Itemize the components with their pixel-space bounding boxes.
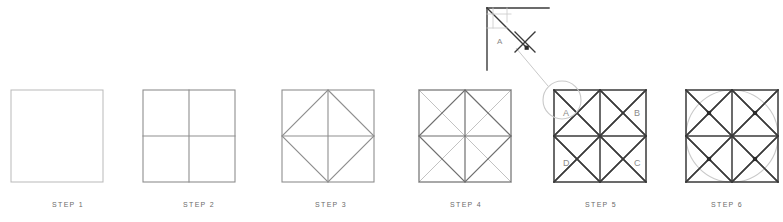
node-marker xyxy=(753,111,757,115)
corner-label-d: D xyxy=(563,158,570,168)
node-marker xyxy=(707,111,711,115)
node-marker xyxy=(753,157,757,161)
corner-label-c: C xyxy=(634,158,641,168)
outer-square xyxy=(11,90,103,182)
steps-layer: ABCD xyxy=(11,90,778,182)
caption-step-6: STEP 6 xyxy=(711,201,743,208)
detail-node-marker xyxy=(525,46,529,50)
callout-lens-circle xyxy=(543,81,581,119)
step-6 xyxy=(686,90,778,182)
callout-leader-line xyxy=(516,48,548,86)
step-3 xyxy=(282,90,374,182)
step-5: ABCD xyxy=(554,90,646,182)
detail-corner-label: A xyxy=(497,37,503,46)
caption-step-4: STEP 4 xyxy=(450,201,482,208)
node-marker xyxy=(707,157,711,161)
step-2 xyxy=(143,90,235,182)
caption-step-3: STEP 3 xyxy=(315,201,347,208)
caption-step-2: STEP 2 xyxy=(183,201,215,208)
corner-label-b: B xyxy=(634,108,640,118)
construction-steps-figure: ABCD A STEP 1STEP 2STEP 3STEP 4STEP 5STE… xyxy=(0,0,783,222)
step-4 xyxy=(419,90,511,182)
caption-step-5: STEP 5 xyxy=(585,201,617,208)
steps-canvas: ABCD A xyxy=(0,0,783,222)
callout-detail: A xyxy=(487,8,549,70)
caption-step-1: STEP 1 xyxy=(52,201,84,208)
step-1 xyxy=(11,90,103,182)
corner-label-a: A xyxy=(563,108,569,118)
